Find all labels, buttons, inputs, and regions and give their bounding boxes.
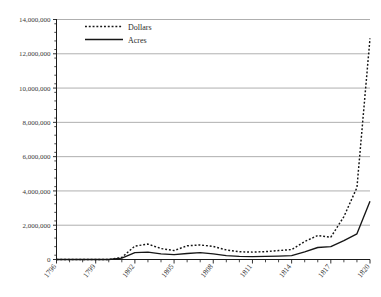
line-chart: 02,000,0004,000,0006,000,0008,000,00010,… <box>0 0 381 297</box>
chart-background <box>0 0 381 297</box>
legend-label-dollars: Dollars <box>128 23 152 32</box>
y-axis-label-2000000: 2,000,000 <box>23 222 52 230</box>
y-axis-label-12000000: 12,000,000 <box>19 50 51 58</box>
legend-label-acres: Acres <box>128 36 147 45</box>
y-axis-label-4000000: 4,000,000 <box>23 188 52 196</box>
y-axis-label-8000000: 8,000,000 <box>23 119 52 127</box>
y-axis-label-6000000: 6,000,000 <box>23 153 52 161</box>
chart-container: 02,000,0004,000,0006,000,0008,000,00010,… <box>0 0 381 297</box>
y-axis-label-10000000: 10,000,000 <box>19 85 51 93</box>
y-axis-label-14000000: 14,000,000 <box>19 16 51 24</box>
